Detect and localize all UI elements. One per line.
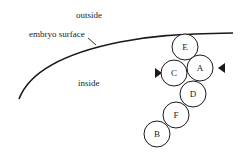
embryo-diagram: outside embryo surface inside E D C A F … <box>0 0 244 156</box>
cell-label: E <box>182 42 188 52</box>
cell-A: A <box>187 55 213 81</box>
cell-D: D <box>180 81 206 107</box>
cell-label: C <box>171 68 177 78</box>
cell-label: D <box>190 89 197 99</box>
cell-label: B <box>154 129 160 139</box>
cell-B: B <box>144 121 170 147</box>
cell-C: C <box>161 60 187 86</box>
cell-F: F <box>163 102 189 128</box>
embryo-surface-label: embryo surface <box>29 29 85 39</box>
inside-label: inside <box>78 78 100 88</box>
right-arrowhead-icon <box>218 63 225 73</box>
surface-pointer-line <box>88 38 96 45</box>
outside-label: outside <box>76 10 102 20</box>
cell-label: F <box>173 110 178 120</box>
cell-label: A <box>197 63 204 73</box>
left-arrowhead-icon <box>155 68 162 78</box>
